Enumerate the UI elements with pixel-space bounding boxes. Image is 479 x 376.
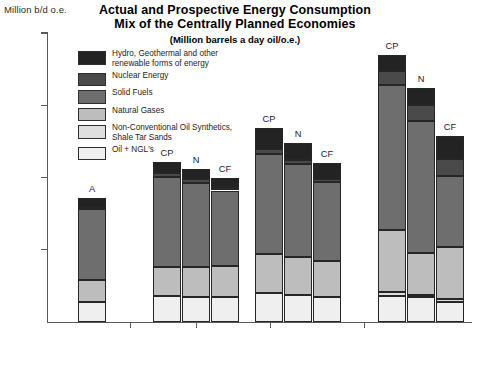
bar-segment-hydro bbox=[211, 178, 239, 188]
legend-swatch-solid-icon bbox=[78, 90, 106, 104]
bar-segment-solid bbox=[182, 183, 210, 267]
bar-segment-oil bbox=[182, 297, 210, 322]
bar-scenario-label-2000-N: N bbox=[406, 74, 436, 84]
y-tick-50 bbox=[41, 177, 48, 178]
legend-label-nonconv: Non-Conventional Oil Synthetics,Shale Ta… bbox=[112, 123, 232, 142]
legend-swatch-hydro-icon bbox=[78, 51, 106, 65]
x-tick-3 bbox=[364, 322, 365, 328]
bar-segment-solid bbox=[407, 121, 435, 252]
y-axis-title: Million b/d o.e. bbox=[4, 4, 67, 15]
y-tick-75 bbox=[41, 105, 48, 106]
bar-segment-nuclear bbox=[407, 105, 435, 121]
bar-segment-gas bbox=[78, 280, 106, 302]
bar-scenario-label-1979-A: A bbox=[77, 184, 107, 194]
bar-scenario-label-1985-N: N bbox=[181, 155, 211, 165]
bar-segment-gas bbox=[255, 254, 283, 293]
bar-segment-oil bbox=[313, 297, 341, 322]
bar-scenario-label-1985-CP: CP bbox=[152, 148, 182, 158]
bar-segment-nuclear bbox=[211, 188, 239, 191]
bar-segment-oil bbox=[407, 297, 435, 322]
bar-segment-gas bbox=[211, 266, 239, 298]
chart-title-block: Actual and Prospective Energy Consumptio… bbox=[70, 4, 400, 45]
bar-segment-solid bbox=[378, 85, 406, 230]
bar-segment-gas bbox=[436, 247, 464, 299]
bar-scenario-label-1990-CF: CF bbox=[312, 149, 342, 159]
bar-segment-nuclear bbox=[284, 160, 312, 164]
page-title-line1: Actual and Prospective Energy Consumptio… bbox=[70, 4, 400, 18]
bar-segment-nuclear bbox=[78, 208, 106, 210]
bar-segment-hydro bbox=[182, 169, 210, 179]
bar-segment-hydro bbox=[407, 88, 435, 105]
bar-segment-hydro bbox=[78, 198, 106, 208]
bar-segment-oil bbox=[436, 302, 464, 322]
bar-segment-oil bbox=[255, 293, 283, 322]
bar-segment-oil bbox=[153, 296, 181, 322]
bar-segment-nuclear bbox=[255, 149, 283, 155]
chart-subtitle: (Million barrels a day oil/o.e.) bbox=[70, 34, 400, 45]
y-tick-25 bbox=[41, 249, 48, 250]
bar-scenario-label-1990-CP: CP bbox=[254, 114, 284, 124]
bar-segment-oil bbox=[378, 296, 406, 322]
bar-segment-solid bbox=[255, 154, 283, 254]
x-tick-1 bbox=[196, 322, 197, 328]
y-tick-100 bbox=[41, 32, 48, 33]
bar-segment-nonconv bbox=[378, 292, 406, 296]
bar-segment-gas bbox=[284, 257, 312, 295]
bar-segment-solid bbox=[436, 176, 464, 247]
bar-segment-gas bbox=[378, 230, 406, 292]
bar-segment-oil bbox=[78, 302, 106, 322]
bar-1985-N bbox=[182, 169, 210, 322]
bar-segment-nuclear bbox=[378, 71, 406, 85]
bar-segment-hydro bbox=[313, 163, 341, 179]
bar-segment-nuclear bbox=[313, 179, 341, 182]
legend-swatch-gas-icon bbox=[78, 108, 106, 122]
bar-segment-solid bbox=[284, 164, 312, 256]
legend-swatch-oil-icon bbox=[78, 147, 106, 161]
bar-segment-nonconv bbox=[436, 299, 464, 302]
bar-segment-oil bbox=[284, 295, 312, 322]
bar-1990-CP bbox=[255, 128, 283, 322]
bar-segment-nuclear bbox=[153, 173, 181, 177]
bar-1985-CF bbox=[211, 178, 239, 323]
legend-label-gas: Natural Gases bbox=[112, 106, 164, 116]
x-tick-0 bbox=[130, 322, 131, 328]
legend-swatch-nonconv-icon bbox=[78, 125, 106, 139]
bar-segment-solid bbox=[313, 182, 341, 261]
bar-segment-hydro bbox=[153, 162, 181, 174]
bar-scenario-label-2000-CP: CP bbox=[377, 41, 407, 51]
legend-swatch-nuclear-icon bbox=[78, 73, 106, 87]
bar-1985-CP bbox=[153, 162, 181, 322]
bar-scenario-label-1985-CF: CF bbox=[210, 164, 240, 174]
chart-root: Million b/d o.e. Actual and Prospective … bbox=[0, 0, 479, 376]
bar-1990-CF bbox=[313, 163, 341, 322]
bar-segment-hydro bbox=[378, 55, 406, 71]
bar-1990-N bbox=[284, 143, 312, 322]
legend-label-solid: Solid Fuels bbox=[112, 88, 153, 98]
bar-segment-solid bbox=[153, 177, 181, 267]
legend-label-oil: Oil + NGL's bbox=[112, 145, 154, 155]
bar-segment-hydro bbox=[284, 143, 312, 160]
page-title-line2: Mix of the Centrally Planned Economies bbox=[70, 18, 400, 32]
bar-scenario-label-2000-CF: CF bbox=[435, 122, 465, 132]
legend-label-hydro: Hydro, Geothermal and otherrenewable for… bbox=[112, 49, 218, 68]
bar-segment-oil bbox=[211, 297, 239, 322]
bar-segment-gas bbox=[407, 253, 435, 295]
bar-segment-nuclear bbox=[436, 159, 464, 176]
x-axis-line bbox=[47, 322, 472, 323]
bar-2000-CP bbox=[378, 55, 406, 322]
bar-segment-solid bbox=[211, 191, 239, 266]
bar-2000-N bbox=[407, 88, 435, 322]
legend-label-nuclear: Nuclear Energy bbox=[112, 71, 168, 81]
bar-2000-CF bbox=[436, 136, 464, 322]
bar-segment-gas bbox=[182, 267, 210, 297]
bar-segment-gas bbox=[153, 267, 181, 296]
bar-scenario-label-1990-N: N bbox=[283, 129, 313, 139]
bar-segment-solid bbox=[78, 209, 106, 280]
bar-segment-gas bbox=[313, 261, 341, 297]
x-tick-2 bbox=[270, 322, 271, 328]
bar-segment-nonconv bbox=[407, 295, 435, 298]
bar-1979-A bbox=[78, 198, 106, 322]
bar-segment-hydro bbox=[436, 136, 464, 159]
bar-segment-hydro bbox=[255, 128, 283, 148]
bar-segment-nuclear bbox=[182, 179, 210, 183]
